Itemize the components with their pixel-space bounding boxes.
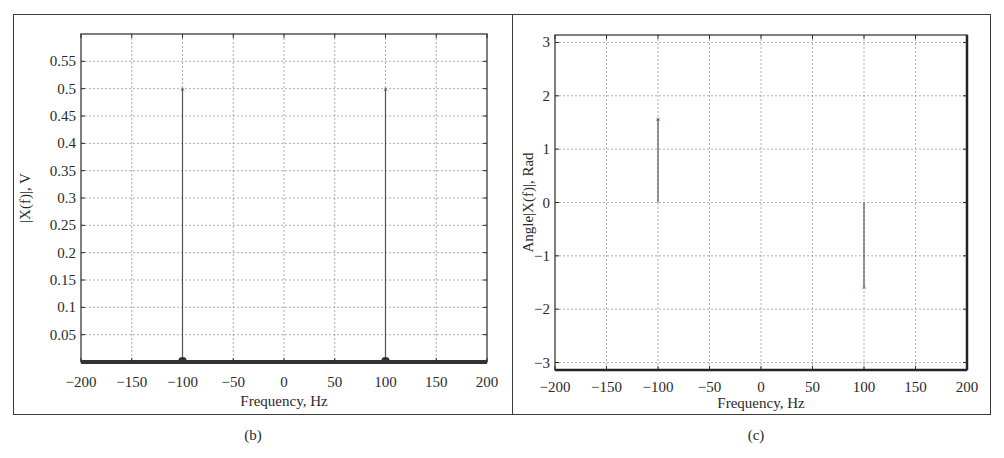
- svg-text:3: 3: [543, 34, 551, 50]
- svg-text:200: 200: [956, 379, 979, 395]
- y-tick-labels: −3−2−10123: [534, 34, 550, 370]
- svg-text:−1: −1: [534, 248, 550, 264]
- x-axis-label: Frequency, Hz: [717, 395, 805, 411]
- svg-text:−100: −100: [643, 379, 674, 395]
- caption-c: (c): [736, 427, 776, 444]
- phase-spectrum-chart: −200−150−100−50050100150200−3−2−10123Fre…: [0, 0, 1004, 458]
- svg-text:2: 2: [543, 88, 551, 104]
- svg-text:−50: −50: [698, 379, 721, 395]
- x-tick-labels: −200−150−100−50050100150200: [540, 379, 979, 395]
- svg-text:50: 50: [805, 379, 820, 395]
- svg-text:−150: −150: [591, 379, 622, 395]
- svg-text:150: 150: [904, 379, 927, 395]
- svg-text:−3: −3: [534, 355, 550, 371]
- svg-text:−200: −200: [540, 379, 571, 395]
- svg-text:−2: −2: [534, 301, 550, 317]
- stem-marker: ×: [655, 114, 660, 124]
- caption-b: (b): [233, 427, 273, 444]
- y-axis-label: Angle|X(f)|, Rad: [520, 152, 537, 253]
- svg-text:1: 1: [543, 141, 551, 157]
- stem-marker: ×: [861, 282, 866, 292]
- svg-text:0: 0: [757, 379, 765, 395]
- svg-text:100: 100: [853, 379, 876, 395]
- svg-text:0: 0: [543, 195, 551, 211]
- grid-lines: [555, 35, 967, 370]
